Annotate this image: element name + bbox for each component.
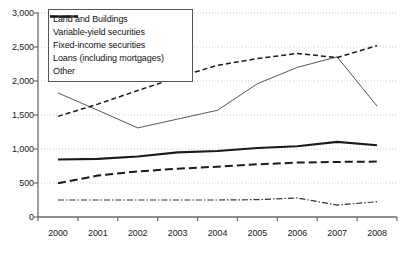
x-tick-label: 2008 <box>367 228 387 238</box>
legend-label: Fixed-income securities <box>53 39 145 52</box>
x-tick-label: 2000 <box>48 228 68 238</box>
x-tick-label: 2006 <box>287 228 307 238</box>
legend-item-1[interactable]: Variable-yield securities <box>53 26 187 39</box>
legend-item-4[interactable]: Other <box>53 65 187 78</box>
legend-key-icon <box>49 10 79 23</box>
x-tick-label: 2005 <box>248 228 268 238</box>
legend-label: Variable-yield securities <box>53 26 145 39</box>
x-tick-label: 2003 <box>168 228 188 238</box>
x-tick-label: 2007 <box>327 228 347 238</box>
chart-legend: Land and BuildingsVariable-yield securit… <box>48 9 193 82</box>
x-tick-label: 2004 <box>208 228 228 238</box>
x-tick-label: 2001 <box>88 228 108 238</box>
legend-label: Other <box>53 65 75 78</box>
legend-item-3[interactable]: Loans (including mortgages) <box>53 52 187 65</box>
line-chart: 05001,0001,5002,0002,5003,000 2000200120… <box>0 0 404 263</box>
legend-label: Loans (including mortgages) <box>53 52 164 65</box>
x-tick-label: 2002 <box>128 228 148 238</box>
legend-item-2[interactable]: Fixed-income securities <box>53 39 187 52</box>
